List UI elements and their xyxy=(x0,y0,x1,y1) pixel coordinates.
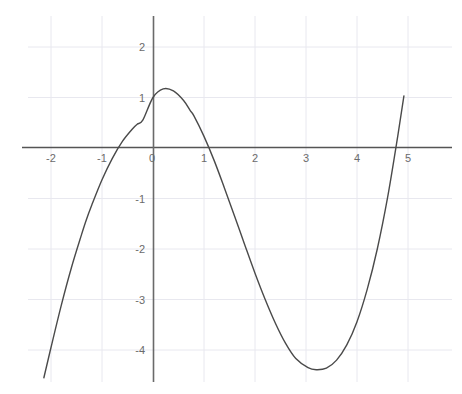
y-tick-label: -2 xyxy=(135,243,145,255)
y-tick-label: -3 xyxy=(135,294,145,306)
x-tick-label: 4 xyxy=(354,152,360,164)
cubic-plot: -2-1012345 -4-3-2-112 xyxy=(0,0,462,394)
chart-figure: -2-1012345 -4-3-2-112 xyxy=(0,0,462,394)
x-tick-label: 3 xyxy=(303,152,309,164)
y-tick-label: 2 xyxy=(139,41,145,53)
x-tick-label: -2 xyxy=(46,152,56,164)
y-tick-label: -1 xyxy=(135,193,145,205)
x-tick-label: 1 xyxy=(201,152,207,164)
x-tick-label: 2 xyxy=(252,152,258,164)
x-tick-label: 0 xyxy=(149,152,155,164)
plot-background xyxy=(0,0,462,394)
y-tick-label: 1 xyxy=(139,92,145,104)
x-tick-label: -1 xyxy=(97,152,107,164)
x-tick-label: 5 xyxy=(405,152,411,164)
y-tick-label: -4 xyxy=(135,344,145,356)
